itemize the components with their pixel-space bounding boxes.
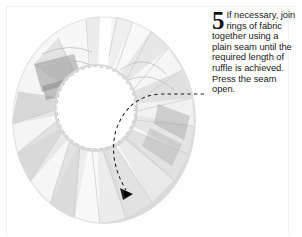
step-number-dropcap: 5 <box>212 11 224 31</box>
ruffle-ring-photograph <box>8 8 208 234</box>
instruction-page: 5 If necessary, join rings of fabric tog… <box>0 0 302 237</box>
ring-opening <box>58 68 135 149</box>
instruction-text: If necessary, join rings of fabric toget… <box>212 10 300 95</box>
page-frame-left-rule <box>6 6 7 234</box>
instruction-caption: 5 If necessary, join rings of fabric tog… <box>212 10 300 95</box>
page-frame-top-rule <box>6 6 296 7</box>
